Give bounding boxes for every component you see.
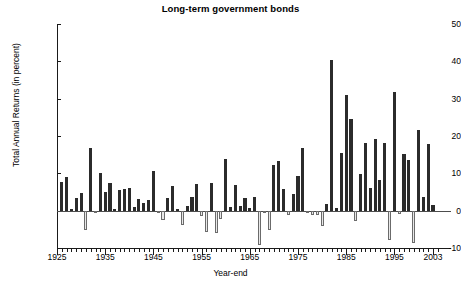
bar [75,198,78,211]
bar [359,174,362,210]
bar [383,143,386,211]
bar [128,188,131,211]
bar [147,200,150,210]
x-tick-label: 1925 [37,252,77,262]
chart-figure: Long-term government bonds Total Annual … [0,0,461,288]
x-tick-minor [226,249,227,252]
bar [407,160,410,210]
bar [142,203,145,211]
bar [205,211,208,232]
bar [378,180,381,210]
chart-title: Long-term government bonds [0,3,461,14]
x-tick-minor [81,249,82,252]
bar [427,144,430,210]
y-tick-label: 20 [417,132,461,141]
bar [335,208,338,211]
bar [224,159,227,211]
bar [325,204,328,211]
bar [94,211,97,213]
bar [402,154,405,210]
bar [301,148,304,211]
y-axis-title: Total Annual Returns (in percent) [11,0,21,220]
bar [349,119,352,210]
x-tick-label: 1935 [85,252,125,262]
bar [393,92,396,210]
bar [268,211,271,230]
bar [133,207,136,210]
bar [118,190,121,211]
bar [354,211,357,221]
bar [263,211,266,213]
y-tick-label: 30 [417,95,461,104]
zero-baseline [57,211,451,212]
bar [229,207,232,211]
bar [219,211,222,220]
y-tick-label: 10 [417,169,461,178]
y-tick-mark [57,136,61,137]
bar [123,189,126,211]
x-tick-minor [370,249,371,252]
bar [239,206,242,210]
bar [65,177,68,210]
bar [369,188,372,211]
bar [176,209,179,210]
bar [108,183,111,211]
bar [80,193,83,211]
bar [422,197,425,211]
bar [89,148,92,211]
x-tick-minor [322,249,323,252]
bar [345,95,348,211]
bar [152,171,155,211]
x-tick-minor [178,249,179,252]
bar [316,211,319,215]
bar [166,198,169,211]
x-tick-label: 1945 [133,252,173,262]
bar [200,211,203,216]
x-tick-label: 1985 [326,252,366,262]
y-tick-mark [57,61,61,62]
bar [248,208,251,211]
x-tick-label: 2003 [413,252,453,262]
bar [311,211,314,215]
bar [306,211,309,214]
bar [431,205,434,211]
bar [287,211,290,215]
bar [84,211,87,231]
y-tick-mark [57,99,61,100]
bar [215,211,218,234]
bar [321,211,324,226]
bar [398,211,401,214]
x-tick-minor [129,249,130,252]
bar [296,176,299,210]
bar [243,198,246,211]
y-tick-mark [57,24,61,25]
bar [330,60,333,211]
bar [70,209,73,210]
x-tick-label: 1975 [278,252,318,262]
bar [161,211,164,221]
bar [258,211,261,245]
bar [417,130,420,210]
bar [186,206,189,210]
bar [210,183,213,211]
y-tick-mark [57,173,61,174]
bar [171,186,174,210]
bar [104,192,107,211]
y-tick-label: 50 [417,20,461,29]
x-tick-label: 1955 [182,252,222,262]
bar [157,211,160,213]
bar [60,182,63,211]
y-tick-label: 40 [417,57,461,66]
bar [272,165,275,210]
x-axis-title: Year-end [0,268,461,278]
bar [277,161,280,210]
bar [195,184,198,211]
bar [388,211,391,240]
bar [412,211,415,243]
bar [253,197,256,211]
bar [234,185,237,211]
bar [282,189,285,210]
x-tick-minor [274,249,275,252]
x-tick-label: 1965 [230,252,270,262]
bar [364,143,367,211]
